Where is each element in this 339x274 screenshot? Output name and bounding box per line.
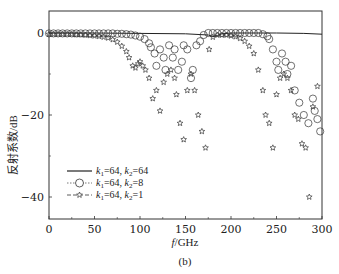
data-point-circle xyxy=(291,87,298,94)
data-point-star xyxy=(192,87,198,92)
x-axis-label: f/GHz xyxy=(172,236,199,248)
data-point-star xyxy=(184,87,190,92)
data-point-star xyxy=(114,39,120,44)
data-point-circle xyxy=(153,62,160,69)
data-point-star xyxy=(195,112,201,117)
y-tick-label: −20 xyxy=(21,109,44,122)
data-point-circle xyxy=(136,33,143,40)
data-point-circle xyxy=(259,31,266,38)
data-point-star xyxy=(137,59,143,64)
data-point-circle xyxy=(218,29,225,36)
data-point-circle xyxy=(300,111,307,118)
data-point-circle xyxy=(314,116,321,123)
data-point-circle xyxy=(288,62,295,69)
data-point-star xyxy=(150,96,156,101)
x-tick-label: 150 xyxy=(175,223,196,236)
data-point-star xyxy=(242,38,248,43)
x-tick-label: 250 xyxy=(266,223,287,236)
data-point-star xyxy=(146,75,152,80)
data-point-circle xyxy=(296,99,303,106)
legend: k1=64, k2=64 k1=64, k2=8 k1=64, k2=1 xyxy=(67,165,148,202)
data-point-star xyxy=(251,51,257,56)
data-point-star xyxy=(177,120,183,125)
y-axis-label: 反射系数/dB xyxy=(6,115,19,175)
data-point-circle xyxy=(275,66,282,73)
data-point-circle xyxy=(160,54,167,61)
x-tick-label: 200 xyxy=(221,223,242,236)
data-point-star xyxy=(270,145,276,150)
data-point-star xyxy=(199,128,205,133)
data-point-circle xyxy=(114,30,121,37)
data-point-circle xyxy=(146,40,153,47)
data-point-star xyxy=(310,104,316,109)
data-point-star xyxy=(260,87,266,92)
data-point-circle xyxy=(284,70,291,77)
legend-circle-swatch xyxy=(76,179,84,187)
data-point-circle xyxy=(169,54,176,61)
data-point-circle xyxy=(209,29,216,36)
data-point-circle xyxy=(269,46,276,53)
data-point-circle xyxy=(156,46,163,53)
data-point-star xyxy=(206,46,212,51)
data-point-star xyxy=(126,55,132,60)
data-point-circle xyxy=(127,31,134,38)
data-point-star xyxy=(255,67,261,72)
data-point-star xyxy=(174,92,180,97)
data-point-star xyxy=(157,108,163,113)
data-point-circle xyxy=(141,36,148,43)
data-point-star xyxy=(306,194,312,199)
x-tick-label: 100 xyxy=(130,223,151,236)
y-tick-label: 0 xyxy=(37,27,44,40)
data-point-circle xyxy=(309,95,316,102)
data-point-star xyxy=(124,48,130,53)
data-point-circle xyxy=(193,42,200,49)
data-point-circle xyxy=(178,58,185,65)
x-tick-label: 50 xyxy=(88,223,102,236)
data-point-circle xyxy=(317,128,324,135)
series-line xyxy=(49,33,322,37)
data-point-star xyxy=(266,120,272,125)
data-point-star xyxy=(154,87,160,92)
series-circle xyxy=(45,29,323,135)
data-point-star xyxy=(161,79,167,84)
data-point-star xyxy=(188,71,194,76)
x-tick-label: 300 xyxy=(312,223,333,236)
data-point-star xyxy=(203,145,209,150)
data-series xyxy=(45,29,323,199)
data-point-star xyxy=(315,83,321,88)
reflection-coefficient-chart: 0501001502002503000−20−40 k1=64, k2=64 k… xyxy=(0,0,339,274)
data-point-star xyxy=(299,141,305,146)
y-tick-label: −40 xyxy=(21,191,44,204)
legend-label-k2-1: k1=64, k2=1 xyxy=(96,189,143,202)
data-point-star xyxy=(263,112,269,117)
data-point-star xyxy=(181,137,187,142)
data-point-star xyxy=(119,43,125,48)
series-star xyxy=(46,31,320,199)
data-point-star xyxy=(274,92,280,97)
x-tick-label: 0 xyxy=(46,223,53,236)
data-point-circle xyxy=(273,58,280,65)
figure-caption: (b) xyxy=(179,255,192,268)
data-point-star xyxy=(246,43,252,48)
data-point-circle xyxy=(171,46,178,53)
data-point-circle xyxy=(278,50,285,57)
data-point-star xyxy=(292,112,298,117)
data-point-circle xyxy=(175,66,182,73)
legend-star-swatch xyxy=(77,192,83,197)
data-point-star xyxy=(172,75,178,80)
data-point-circle xyxy=(305,120,312,127)
